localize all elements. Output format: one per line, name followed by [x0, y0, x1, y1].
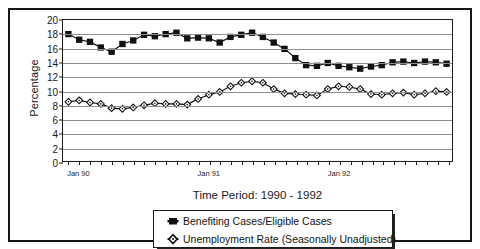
y-tick-label: 12 [47, 72, 58, 83]
x-tick-mark [405, 161, 406, 165]
data-point-diamond-center [273, 88, 275, 90]
gridline [63, 106, 452, 107]
chart-legend: Benefiting Cases/Eligible Cases Unemploy… [153, 210, 393, 248]
data-point-diamond-center [132, 107, 134, 109]
y-tick-mark [59, 34, 63, 35]
y-tick-label: 4 [52, 129, 58, 140]
legend-label-unemployment-rate: Unemployment Rate (Seasonally Unadjusted… [183, 233, 396, 245]
data-point-diamond-center [78, 100, 80, 102]
data-point-diamond-center [89, 102, 91, 104]
data-point-square [346, 64, 352, 70]
x-tick-mark [351, 161, 352, 165]
data-point-square [98, 44, 104, 50]
data-point-diamond-center [424, 93, 426, 95]
data-point-diamond-center [251, 81, 253, 83]
x-tick-mark [101, 161, 102, 165]
gridline [63, 149, 452, 150]
x-tick-mark [449, 161, 450, 165]
y-tick-mark [59, 62, 63, 63]
data-point-square [271, 39, 277, 45]
data-point-square [368, 63, 374, 69]
y-tick-mark [59, 91, 63, 92]
legend-item-unemployment-rate: Unemployment Rate (Seasonally Unadjusted… [154, 230, 392, 247]
data-point-square [87, 39, 93, 45]
chart-figure-frame: Percentage 02468101214161820Jan 90Jan 91… [8, 8, 472, 242]
x-tick-mark [90, 161, 91, 165]
data-point-diamond-center [284, 93, 286, 95]
x-tick-label: Jan 91 [197, 169, 220, 178]
x-tick-label: Jan 92 [328, 169, 351, 178]
x-tick-mark [427, 161, 428, 165]
y-tick-mark [59, 20, 63, 21]
gridline [63, 92, 452, 93]
scan-artifact-band [0, 0, 480, 7]
x-tick-mark [253, 161, 254, 165]
y-tick-label: 18 [47, 29, 58, 40]
y-tick-mark [59, 163, 63, 164]
x-tick-mark [166, 161, 167, 165]
x-tick-mark [362, 161, 363, 165]
data-point-diamond-center [359, 88, 361, 90]
y-tick-mark [59, 105, 63, 106]
x-tick-mark [340, 161, 341, 165]
y-tick-label: 20 [47, 15, 58, 26]
x-tick-mark [373, 161, 374, 165]
x-tick-mark [231, 161, 232, 165]
y-tick-mark [59, 148, 63, 149]
data-point-square [184, 35, 190, 41]
x-tick-mark [286, 161, 287, 165]
x-tick-mark [155, 161, 156, 165]
x-tick-mark [144, 161, 145, 165]
data-point-diamond-center [230, 85, 232, 87]
data-point-diamond-center [165, 103, 167, 105]
x-tick-mark [416, 161, 417, 165]
x-tick-mark [68, 161, 69, 165]
y-axis-title: Percentage [28, 23, 40, 153]
y-tick-mark [59, 120, 63, 121]
gridline [63, 77, 452, 78]
x-tick-mark [275, 161, 276, 165]
x-tick-mark [242, 161, 243, 165]
data-point-square [357, 65, 363, 71]
x-axis-title: Time Period: 1990 - 1992 [62, 189, 453, 201]
y-tick-mark [59, 48, 63, 49]
data-point-diamond-center [413, 94, 415, 96]
gridline [63, 63, 452, 64]
data-point-diamond-center [68, 101, 70, 103]
data-point-diamond-center [154, 102, 156, 104]
y-tick-label: 10 [47, 86, 58, 97]
data-point-diamond-center [100, 103, 102, 105]
data-point-square [119, 41, 125, 47]
data-point-diamond-center [240, 82, 242, 84]
data-point-square [217, 39, 223, 45]
legend-item-benefiting-cases: Benefiting Cases/Eligible Cases [154, 212, 392, 229]
y-tick-label: 6 [52, 115, 58, 126]
open-diamond-marker-icon [166, 232, 182, 246]
data-point-square [76, 37, 82, 43]
y-tick-mark [59, 77, 63, 78]
x-tick-mark [297, 161, 298, 165]
series-line [68, 81, 446, 108]
data-point-diamond-center [295, 93, 297, 95]
x-tick-mark [199, 161, 200, 165]
data-point-diamond-center [197, 98, 199, 100]
y-tick-label: 0 [52, 158, 58, 169]
x-tick-mark [134, 161, 135, 165]
x-tick-mark [264, 161, 265, 165]
gridline [63, 120, 452, 121]
x-tick-mark [318, 161, 319, 165]
x-tick-mark [329, 161, 330, 165]
x-tick-mark [438, 161, 439, 165]
data-point-diamond-center [316, 95, 318, 97]
gridline [63, 134, 452, 135]
data-point-diamond-center [122, 108, 124, 110]
x-tick-mark [112, 161, 113, 165]
data-point-diamond-center [392, 93, 394, 95]
y-tick-label: 14 [47, 57, 58, 68]
x-tick-mark [188, 161, 189, 165]
data-point-diamond-center [111, 107, 113, 109]
data-point-square [206, 35, 212, 41]
plot-area: 02468101214161820Jan 90Jan 91Jan 92 [62, 19, 453, 162]
data-point-diamond-center [327, 88, 329, 90]
data-point-square [292, 55, 298, 61]
